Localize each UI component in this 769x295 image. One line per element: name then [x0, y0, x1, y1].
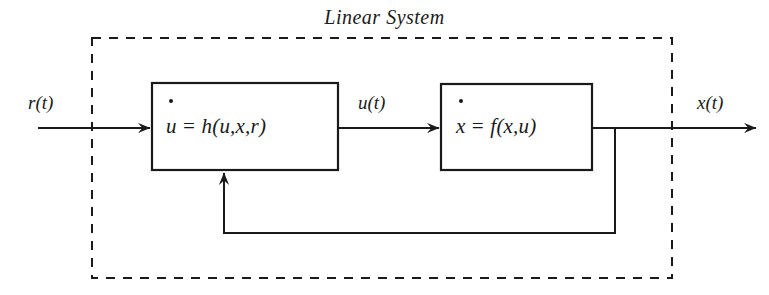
block-1-equation: u= h(u,x,r) [166, 114, 266, 139]
input-signal-label: r(t) [28, 92, 53, 114]
system-title: Linear System [0, 6, 769, 29]
output-signal-label: x(t) [697, 92, 723, 114]
block-1-lhs-var: u [166, 114, 177, 139]
intermediate-signal-label: u(t) [358, 92, 385, 114]
block-diagram: Linear System r(t) u(t) x(t) u= h(u,x,r)… [0, 0, 769, 295]
derivative-dot-icon [169, 99, 173, 103]
derivative-dot-icon [459, 99, 463, 103]
block-2-lhs-var: x [456, 114, 466, 139]
block-1-lhs-letter: u [166, 114, 177, 138]
block-2-lhs-letter: x [456, 114, 466, 138]
block-2-equation: x= f(x,u) [456, 114, 536, 139]
block-1-rhs: = h(u,x,r) [182, 114, 266, 138]
block-2-rhs: = f(x,u) [471, 114, 537, 138]
diagram-canvas [0, 0, 769, 295]
